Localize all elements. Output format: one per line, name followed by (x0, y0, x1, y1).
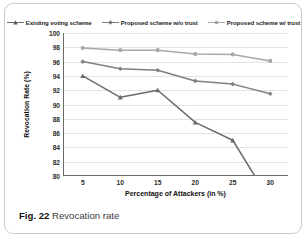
y-axis-tick-label: 86 (53, 130, 60, 137)
x-axis-tick-label: 5 (81, 179, 85, 186)
legend-item-proposed-scheme-wo-trust: Proposed scheme w/o trust (102, 19, 198, 26)
y-axis-tick-label: 96 (53, 58, 60, 65)
legend-label-existing-voting-scheme: Existing voting scheme (26, 19, 92, 26)
y-axis-tick-label: 92 (53, 87, 60, 94)
y-axis-tick-label: 82 (53, 158, 60, 165)
data-point (80, 59, 85, 64)
figure-caption-label: Fig. 22 (19, 210, 49, 221)
data-point (118, 48, 122, 52)
data-point (155, 68, 160, 73)
y-axis-title: Revocation Rate (%) (23, 33, 35, 176)
circle-marker-icon (214, 20, 219, 25)
data-point (231, 52, 235, 56)
figure-caption-text: Revocation rate (52, 210, 119, 221)
x-axis-tick-label: 20 (192, 179, 199, 186)
triangle-marker-icon (13, 20, 18, 25)
data-point (268, 91, 273, 96)
legend-item-proposed-scheme-w-trust: Proposed scheme w/ trust (208, 19, 300, 26)
x-axis-tick-label: 15 (154, 179, 161, 186)
data-point (156, 48, 160, 52)
x-axis-tick-label: 10 (117, 179, 124, 186)
data-point (193, 79, 198, 84)
data-point (230, 82, 235, 87)
y-axis-tick-label: 90 (53, 101, 60, 108)
y-axis-tick-label: 98 (53, 44, 60, 51)
figure-card: Existing voting scheme Proposed scheme w… (4, 3, 302, 234)
figure-caption: Fig. 22 Revocation rate (19, 210, 119, 221)
data-point (193, 52, 197, 56)
data-point (118, 66, 123, 71)
y-axis-tick-label: 94 (53, 72, 60, 79)
x-axis-tick-label: 25 (229, 179, 236, 186)
data-point (81, 46, 85, 50)
y-axis-tick-label: 100 (49, 30, 60, 37)
legend-marker-circle-icon (208, 19, 225, 26)
legend-marker-triangle-icon (7, 19, 24, 26)
plot-frame: 80828486889092949698100 51015202530 (63, 33, 288, 176)
series-plot (64, 33, 289, 176)
series-0 (80, 73, 270, 201)
chart-region: Existing voting scheme Proposed scheme w… (11, 9, 296, 205)
y-axis-tick-label: 80 (53, 173, 60, 180)
plot-area: 80828486889092949698100 51015202530 (63, 33, 288, 176)
y-axis-tick-label: 88 (53, 115, 60, 122)
diamond-marker-icon (108, 20, 113, 25)
x-axis-title: Percentage of Attackers (in %) (63, 190, 288, 197)
legend-marker-diamond-icon (102, 19, 119, 26)
legend-item-existing-voting-scheme: Existing voting scheme (7, 19, 92, 26)
y-axis-tick-label: 84 (53, 144, 60, 151)
data-point (80, 73, 85, 78)
series-2 (81, 46, 273, 63)
data-point (268, 59, 272, 63)
legend-label-proposed-scheme-wo-trust: Proposed scheme w/o trust (121, 19, 198, 26)
chart-legend: Existing voting scheme Proposed scheme w… (11, 16, 296, 29)
x-axis-tick-label: 30 (267, 179, 274, 186)
legend-label-proposed-scheme-w-trust: Proposed scheme w/ trust (227, 19, 300, 26)
